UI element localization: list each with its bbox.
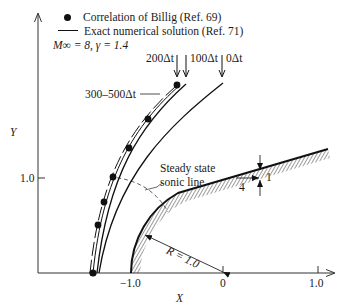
y-tick-label-1: 1.0 — [20, 172, 34, 185]
legend-item-exact: Exact numerical solution (Ref. 71) — [52, 25, 243, 38]
label-100dt: 100Δt — [190, 52, 218, 65]
x-axis — [38, 266, 335, 277]
filled-circle-marker — [64, 14, 71, 21]
slope-rise-label: 1 — [266, 171, 272, 184]
y-axis-label: Y — [10, 126, 16, 139]
label-300-500dt: 300–500Δt — [85, 88, 136, 101]
x-tick-label-0: 0 — [220, 277, 226, 290]
x-tick-label-1: 1.0 — [309, 277, 323, 290]
legend-item-billig: Correlation of Billig (Ref. 69) — [52, 11, 221, 24]
sonic-line-label-1: Steady state — [160, 162, 215, 175]
y-axis — [35, 13, 46, 273]
label-200dt: 200Δt — [146, 52, 174, 65]
flow-conditions: M∞ = 8, γ = 1.4 — [53, 39, 128, 52]
label-0dt: 0Δt — [226, 52, 242, 65]
shock-shape-diagram: Correlation of Billig (Ref. 69) Exact nu… — [0, 0, 349, 307]
x-tick-label-neg1: −1.0 — [120, 277, 141, 290]
slope-run-label: 4 — [239, 181, 245, 194]
sonic-line-label-2: sonic line — [160, 176, 204, 189]
solid-line-marker — [58, 30, 78, 31]
legend-label: Exact numerical solution (Ref. 71) — [84, 25, 243, 37]
x-axis-label: X — [176, 292, 183, 305]
legend-label: Correlation of Billig (Ref. 69) — [83, 11, 221, 23]
